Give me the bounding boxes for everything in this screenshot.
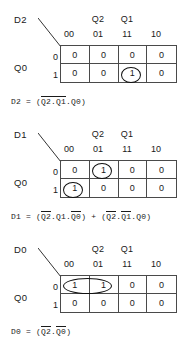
kmap-cell: 0	[147, 294, 176, 312]
row-variable-label-d2: Q0	[14, 62, 27, 73]
kmap-cell: 0	[61, 46, 90, 64]
kmap-cell: 1	[90, 161, 119, 179]
equation-term-negated: Q2.Q1	[41, 96, 66, 106]
row-header-0-d1: 0	[46, 167, 58, 177]
equation-term-negated: Q2	[106, 211, 116, 221]
row-header-0-d2: 0	[46, 52, 58, 62]
row-header-1-d0: 1	[46, 300, 58, 310]
kmap-cell: 1	[61, 179, 90, 197]
column-header-10-d1: 10	[141, 144, 171, 154]
kmap-cell: 0	[147, 179, 176, 197]
kmap-cell: 0	[90, 294, 119, 312]
row-header-0-d0: 0	[46, 282, 58, 292]
kmap-cell: 0	[61, 161, 90, 179]
equation-term-plain: .Q0	[131, 212, 146, 221]
kmap-cell: 0	[90, 46, 119, 64]
kmap-cell: 0	[119, 276, 148, 294]
column-group-header-q1-d1: Q1	[112, 129, 142, 139]
kmap-cell: 1	[90, 276, 119, 294]
equation-close-paren: )	[66, 327, 71, 336]
kmap-cell: 0	[147, 276, 176, 294]
kmap-cell: 0	[61, 294, 90, 312]
column-header-00-d1: 00	[54, 144, 84, 154]
equation-d2: D2 = (Q2.Q1.Q0)	[11, 96, 86, 106]
kmap-cell: 1	[119, 64, 148, 82]
equation-lhs: D1	[11, 212, 21, 221]
column-header-11-d1: 11	[112, 144, 142, 154]
kmap-grid-d1: 0 1 0 0 1 0 0 0	[60, 160, 177, 198]
kmap-cell: 0	[147, 64, 176, 82]
equation-close-paren: )	[81, 97, 86, 106]
column-group-header-q1-d2: Q1	[112, 14, 142, 24]
equation-term-plain: .Q1.	[51, 212, 71, 221]
equation-close-paren: )	[146, 212, 151, 221]
row-header-1-d2: 1	[46, 70, 58, 80]
kmap-block-d1: D1 Q0 Q2 Q1 00 01 11 10 0 1 0 1 0 0 1 0 …	[0, 115, 189, 232]
kmap-cell: 0	[147, 46, 176, 64]
column-header-10-d2: 10	[141, 29, 171, 39]
column-group-header-q1-d0: Q1	[112, 244, 142, 254]
equation-term-negated: Q2	[41, 326, 51, 336]
column-header-00-d0: 00	[54, 259, 84, 269]
row-variable-label-d1: Q0	[14, 177, 27, 188]
kmap-cell: 1	[61, 276, 90, 294]
equation-lhs: D2	[11, 97, 21, 106]
equation-term-negated: Q2	[41, 211, 51, 221]
equation-term-negated: Q0	[56, 326, 66, 336]
column-header-11-d0: 11	[112, 259, 142, 269]
column-header-01-d0: 01	[83, 259, 113, 269]
output-label-d1: D1	[14, 129, 27, 140]
column-header-00-d2: 00	[54, 29, 84, 39]
equation-lhs: D0	[11, 327, 21, 336]
column-header-01-d1: 01	[83, 144, 113, 154]
kmap-cell: 0	[119, 161, 148, 179]
kmap-cell: 0	[119, 46, 148, 64]
kmap-cell: 0	[119, 294, 148, 312]
kmap-cell: 0	[119, 179, 148, 197]
equation-d0: D0 = (Q2.Q0)	[11, 326, 71, 336]
kmap-block-d2: D2 Q0 Q2 Q1 00 01 11 10 0 1 0 0 0 0 0 0 …	[0, 0, 189, 117]
row-variable-label-d0: Q0	[14, 292, 27, 303]
column-group-header-q2-d0: Q2	[83, 244, 113, 254]
row-header-1-d1: 1	[46, 185, 58, 195]
column-header-11-d2: 11	[112, 29, 142, 39]
output-label-d0: D0	[14, 244, 27, 255]
kmap-grid-d2: 0 0 0 0 0 0 1 0	[60, 45, 177, 83]
kmap-cell: 0	[90, 64, 119, 82]
column-header-10-d0: 10	[141, 259, 171, 269]
equation-term-plain: .Q0	[66, 97, 81, 106]
column-group-header-q2-d2: Q2	[83, 14, 113, 24]
output-label-d2: D2	[14, 14, 27, 25]
kmap-cell: 0	[90, 179, 119, 197]
kmap-cell: 0	[61, 64, 90, 82]
column-group-header-q2-d1: Q2	[83, 129, 113, 139]
kmap-cell: 0	[147, 161, 176, 179]
equation-term-negated: Q1	[121, 211, 131, 221]
equation-d1: D1 = (Q2.Q1.Q0) + (Q2.Q1.Q0)	[11, 211, 151, 221]
equation-term-negated: Q0	[71, 211, 81, 221]
kmap-block-d0: D0 Q0 Q2 Q1 00 01 11 10 0 1 1 1 0 0 0 0 …	[0, 230, 189, 347]
column-header-01-d2: 01	[83, 29, 113, 39]
kmap-grid-d0: 1 1 0 0 0 0 0 0	[60, 275, 177, 313]
